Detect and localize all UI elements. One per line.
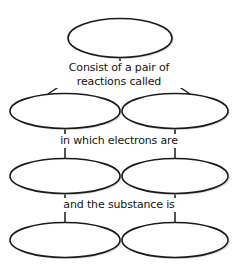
- node-electron-left[interactable]: [10, 159, 120, 194]
- edge-label-substance-text: and the substance is: [0, 198, 238, 212]
- concept-map-diagram: Consist of a pair of reactions called in…: [0, 0, 238, 270]
- node-branch-right[interactable]: [122, 94, 228, 129]
- node-root[interactable]: [68, 19, 172, 58]
- node-substance-left[interactable]: [10, 223, 120, 258]
- edge-label-consist-of-line1: Consist of a pair of: [0, 61, 238, 75]
- edge-label-consist-of: Consist of a pair of reactions called: [0, 61, 238, 88]
- node-electron-right[interactable]: [122, 159, 228, 194]
- edge-label-electrons: in which electrons are: [0, 134, 238, 148]
- edge-label-consist-of-line2: reactions called: [0, 75, 238, 89]
- edge-label-substance: and the substance is: [0, 198, 238, 212]
- edge-label-electrons-text: in which electrons are: [0, 134, 238, 148]
- node-branch-left[interactable]: [10, 94, 120, 129]
- node-substance-right[interactable]: [122, 223, 228, 258]
